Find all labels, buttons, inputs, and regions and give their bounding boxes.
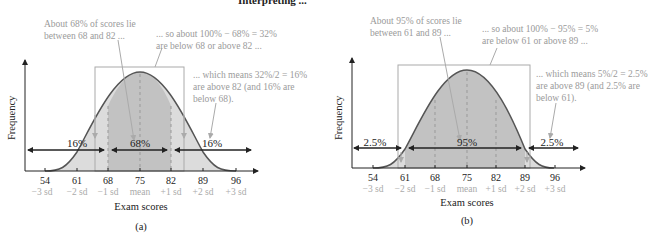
svg-text:89: 89 <box>520 172 530 183</box>
svg-text:are above 89 (and 2.5% are: are above 89 (and 2.5% are <box>536 81 640 92</box>
left-pct-label: 2.5% <box>364 136 387 148</box>
svg-text:+2 sd: +2 sd <box>193 187 214 197</box>
svg-text:61: 61 <box>400 172 410 183</box>
curve-area-inner <box>405 70 525 168</box>
x-axis-label: Exam scores <box>114 201 167 212</box>
x-sd-labels: −3 sd −2 sd −1 sd mean +1 sd +2 sd +3 sd <box>32 187 247 197</box>
svg-text:below 61).: below 61). <box>536 93 577 104</box>
svg-text:+1 sd: +1 sd <box>486 184 507 194</box>
svg-text:82: 82 <box>166 175 176 186</box>
svg-text:+3 sd: +3 sd <box>545 184 566 194</box>
right-pct-label: 2.5% <box>541 136 564 148</box>
svg-text:mean: mean <box>457 184 478 194</box>
svg-text:−2 sd: −2 sd <box>395 184 416 194</box>
svg-text:are below 68 or above 82 ...: are below 68 or above 82 ... <box>156 41 262 51</box>
svg-text:54: 54 <box>368 172 378 183</box>
svg-text:68: 68 <box>430 172 440 183</box>
svg-text:89: 89 <box>198 175 208 186</box>
chart-panel-a: 16% 68% 16% 54 61 68 75 82 89 96 −3 sd −… <box>0 0 332 235</box>
svg-text:... which means 32%/2 = 16%: ... which means 32%/2 = 16% <box>193 70 307 80</box>
svg-text:96: 96 <box>231 175 241 186</box>
svg-text:−1 sd: −1 sd <box>425 184 446 194</box>
svg-text:below 68).: below 68). <box>193 94 234 105</box>
chart-panel-b: 2.5% 95% 2.5% 54 61 68 75 82 89 96 −3 sd… <box>332 0 664 235</box>
note3-pointer <box>210 103 216 138</box>
left-pct-label: 16% <box>67 137 87 149</box>
svg-text:+1 sd: +1 sd <box>161 187 182 197</box>
right-pct-label: 16% <box>202 137 222 149</box>
svg-text:+2 sd: +2 sd <box>515 184 536 194</box>
svg-text:−2 sd: −2 sd <box>67 187 88 197</box>
panel-caption: (a) <box>135 221 147 233</box>
svg-text:About 68% of scores lie: About 68% of scores lie <box>44 19 136 29</box>
svg-text:61: 61 <box>72 175 82 186</box>
chart-a-svg: 16% 68% 16% 54 61 68 75 82 89 96 −3 sd −… <box>0 0 332 235</box>
x-tick-labels: 54 61 68 75 82 89 96 <box>40 175 241 186</box>
svg-text:75: 75 <box>135 175 145 186</box>
svg-text:−1 sd: −1 sd <box>98 187 119 197</box>
y-axis-label: Frequency <box>6 95 17 140</box>
svg-text:... so about 100% − 68% = 32%: ... so about 100% − 68% = 32% <box>156 29 277 39</box>
svg-text:... which means 5%/2 = 2.5%: ... which means 5%/2 = 2.5% <box>536 69 648 79</box>
annotations: About 95% of scores lie between 61 and 8… <box>370 16 648 104</box>
svg-text:68: 68 <box>103 175 113 186</box>
mid-pct-label: 95% <box>457 136 477 148</box>
note2-pointer <box>490 48 497 65</box>
note3-pointer <box>550 103 556 138</box>
svg-text:75: 75 <box>462 172 472 183</box>
svg-text:between 61 and 89 ...: between 61 and 89 ... <box>370 28 451 38</box>
mid-pct-label: 68% <box>130 137 150 149</box>
panel-caption: (b) <box>461 215 474 227</box>
svg-text:... so about 100% − 95% = 5%: ... so about 100% − 95% = 5% <box>482 24 598 34</box>
y-axis-label: Frequency <box>333 95 344 140</box>
svg-text:mean: mean <box>130 187 151 197</box>
svg-text:+3 sd: +3 sd <box>226 187 247 197</box>
svg-text:are above 82 (and 16% are: are above 82 (and 16% are <box>193 82 295 93</box>
svg-text:96: 96 <box>550 172 560 183</box>
x-tick-labels: 54 61 68 75 82 89 96 <box>368 172 560 183</box>
chart-b-svg: 2.5% 95% 2.5% 54 61 68 75 82 89 96 −3 sd… <box>332 0 664 235</box>
x-axis-label: Exam scores <box>440 197 493 208</box>
x-sd-labels: −3 sd −2 sd −1 sd mean +1 sd +2 sd +3 sd <box>363 184 566 194</box>
annotations: About 68% of scores lie between 68 and 8… <box>44 19 307 105</box>
svg-text:82: 82 <box>491 172 501 183</box>
svg-text:−3 sd: −3 sd <box>32 187 53 197</box>
svg-text:−3 sd: −3 sd <box>363 184 384 194</box>
svg-text:are below 61 or above 89 ...: are below 61 or above 89 ... <box>482 36 588 46</box>
svg-text:54: 54 <box>40 175 50 186</box>
svg-text:between 68 and 82 ...: between 68 and 82 ... <box>44 31 125 41</box>
svg-text:About 95% of scores lie: About 95% of scores lie <box>370 16 462 26</box>
